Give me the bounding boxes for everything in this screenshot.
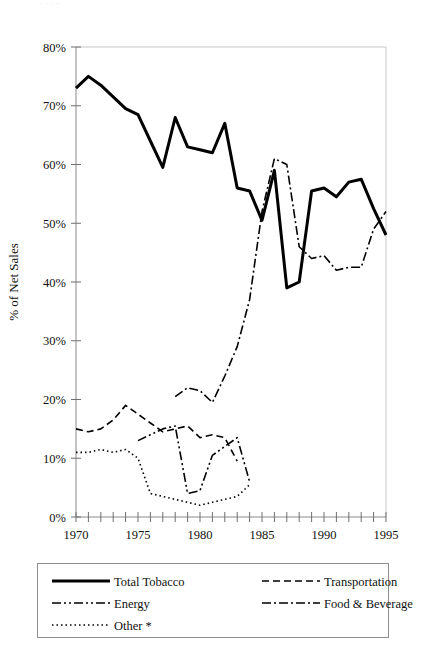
legend: Total TobaccoTransportationEnergyFood & … xyxy=(38,564,414,638)
y-tick-label: 0% xyxy=(49,511,66,525)
x-tick-label: 1970 xyxy=(64,528,89,542)
x-tick-label: 1985 xyxy=(250,528,275,542)
x-tick-label: 1980 xyxy=(188,528,213,542)
legend-label: Transportation xyxy=(324,575,398,589)
plot-axes xyxy=(76,47,386,517)
y-tick-label: 60% xyxy=(43,158,66,172)
y-axis-title: % of Net Sales xyxy=(6,243,21,321)
chart-figure: · · · ·· 0%10%20%30%40%50%60%70%80% 1970… xyxy=(0,0,426,652)
y-tick-label: 20% xyxy=(43,393,66,407)
x-tick-label: 1990 xyxy=(312,528,337,542)
y-tick-label: 80% xyxy=(43,41,66,55)
y-tick-label: 10% xyxy=(43,452,66,466)
legend-label: Total Tobacco xyxy=(114,575,185,589)
series-line-total-tobacco xyxy=(76,76,386,288)
y-axis-tick-labels: 0%10%20%30%40%50%60%70%80% xyxy=(43,41,66,525)
y-tick-label: 70% xyxy=(43,99,66,113)
x-tick-label: 1975 xyxy=(126,528,151,542)
line-chart: 0%10%20%30%40%50%60%70%80% 1970197519801… xyxy=(0,0,426,652)
y-tick-label: 30% xyxy=(43,334,66,348)
series-line-food-beverage xyxy=(175,159,386,403)
y-tick-label: 50% xyxy=(43,217,66,231)
legend-label: Energy xyxy=(114,597,151,611)
y-tick-label: 40% xyxy=(43,276,66,290)
legend-label: Food & Beverage xyxy=(324,597,413,611)
legend-label: Other * xyxy=(114,619,152,633)
series-line-other xyxy=(76,449,250,505)
x-axis-tick-labels: 197019751980198519901995 xyxy=(64,528,399,542)
series-lines xyxy=(76,76,386,505)
series-line-energy xyxy=(138,426,250,494)
plot-frame-border xyxy=(76,47,386,517)
x-tick-label: 1995 xyxy=(374,528,399,542)
series-line-transportation xyxy=(76,405,237,461)
plot-frame xyxy=(76,47,386,517)
